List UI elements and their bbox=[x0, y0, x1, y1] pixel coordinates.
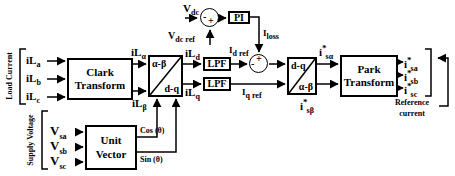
id-summer-minus: - bbox=[251, 59, 254, 69]
wire-reference-loop bbox=[438, 58, 448, 106]
dq-alphabeta-top-label: d-q bbox=[291, 60, 305, 71]
vdc-summer-plus: + bbox=[208, 16, 214, 26]
lpf-bottom-block: LPF bbox=[203, 77, 231, 91]
dq-alphabeta-bottom-label: α-β bbox=[299, 81, 313, 92]
lpf-top-block: LPF bbox=[203, 57, 231, 71]
id-summing-junction: + - bbox=[249, 54, 268, 73]
label-il-alpha: iLα bbox=[131, 45, 146, 64]
alphabeta-dq-bottom-label: d-q bbox=[165, 83, 179, 94]
load-current-group-label: Load Current bbox=[5, 47, 15, 105]
dq-control-block-diagram: Load Current Supply Voltage iLa iLb iLc … bbox=[0, 0, 455, 176]
label-i-loss: Iloss bbox=[263, 26, 279, 44]
bracket-supply-voltage bbox=[42, 111, 48, 169]
unit-vector-line1: Unit bbox=[101, 134, 122, 147]
label-vdc-ref: Vdc ref bbox=[168, 29, 195, 47]
pi-controller-block: PI bbox=[228, 11, 250, 24]
park-label-line1: Park bbox=[357, 63, 380, 76]
label-is-beta: i*sβ bbox=[300, 95, 314, 118]
reference-current-line1: Reference bbox=[386, 97, 438, 108]
park-label-line2: Transform bbox=[344, 76, 395, 89]
supply-voltage-group-label: Supply Voltage bbox=[26, 111, 36, 169]
label-il-b: iLb bbox=[26, 71, 41, 90]
dq-to-alphabeta-block: d-q α-β bbox=[287, 57, 317, 95]
unit-vector-block: Unit Vector bbox=[85, 125, 137, 170]
label-iq-ref: Iq ref bbox=[242, 85, 262, 103]
clark-label-line2: Transform bbox=[75, 79, 126, 92]
label-is-alpha: i*sα bbox=[319, 41, 333, 64]
pi-label: PI bbox=[234, 12, 244, 24]
lpf-top-label: LPF bbox=[208, 58, 227, 70]
bracket-reference-current bbox=[425, 49, 431, 96]
park-transform-block: Park Transform bbox=[340, 55, 398, 97]
label-v-sc: Vsc bbox=[50, 154, 66, 174]
clark-transform-block: Clark Transform bbox=[67, 58, 133, 100]
clark-label-line1: Clark bbox=[86, 66, 114, 79]
vdc-summing-junction: - + bbox=[200, 8, 219, 27]
id-summer-plus: + bbox=[256, 54, 262, 64]
label-vdc: Vdc bbox=[183, 1, 199, 20]
label-il-d: iLd bbox=[185, 46, 200, 65]
wire-i-loss bbox=[250, 17, 259, 52]
lpf-bottom-label: LPF bbox=[208, 78, 227, 90]
reference-current-line2: current bbox=[386, 108, 438, 119]
label-il-q: iLq bbox=[185, 85, 200, 104]
vdc-summer-minus: - bbox=[203, 12, 206, 22]
label-il-a: iLa bbox=[26, 53, 40, 72]
label-sin-theta: Sin (θ) bbox=[140, 155, 163, 165]
label-il-c: iLc bbox=[26, 89, 40, 108]
label-cos-theta: Cos (θ) bbox=[140, 126, 164, 136]
alphabeta-to-dq-block: α-β d-q bbox=[148, 55, 183, 97]
label-il-beta: iLβ bbox=[132, 96, 147, 115]
alphabeta-dq-top-label: α-β bbox=[152, 58, 166, 69]
reference-current-label: Reference current bbox=[386, 97, 438, 119]
unit-vector-line2: Vector bbox=[96, 148, 127, 161]
label-id-ref: Id ref bbox=[229, 43, 249, 61]
